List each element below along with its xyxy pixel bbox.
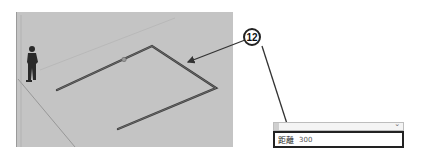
measurement-value-input[interactable]: 300 [299, 136, 312, 144]
measurements-box[interactable]: 距離 300 [273, 131, 404, 148]
person-figure-icon [26, 46, 38, 82]
callout-arrow-to-input [262, 46, 289, 130]
ground-edge-line [18, 79, 75, 147]
axis-guide-line [40, 18, 175, 70]
measurements-toolbar-dropdown[interactable]: ⌄ [273, 122, 404, 131]
chevron-down-icon[interactable]: ⌄ [394, 120, 400, 128]
drawn-path-edge[interactable] [57, 46, 216, 129]
callout-number: 12 [246, 32, 257, 43]
callout-arrow-to-path [188, 40, 245, 62]
measurement-label: 距離 [278, 134, 294, 145]
path-highlight [57, 46, 216, 129]
midpoint-marker-icon [122, 57, 126, 61]
toolbar-grip-handle[interactable] [274, 123, 279, 130]
callout-number-badge: 12 [243, 28, 261, 46]
